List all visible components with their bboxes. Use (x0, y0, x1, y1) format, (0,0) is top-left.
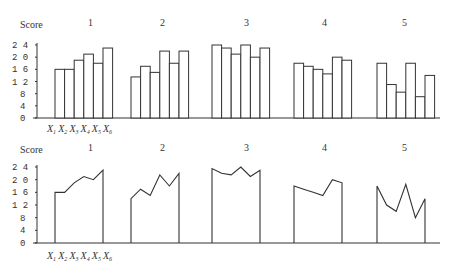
line-chart-line (377, 184, 425, 243)
line-chart-xlabel: X3 (68, 250, 78, 262)
line-chart-xlabel: X4 (80, 250, 90, 262)
bar-chart-bar (131, 77, 141, 118)
line-chart-ytick: 1 2 (12, 201, 28, 211)
bar-chart-xlabel: X1 (46, 123, 56, 135)
bar-chart-panel-title: 3 (244, 17, 249, 28)
line-chart-line (212, 167, 260, 243)
line-chart-ytick: 1 6 (12, 188, 28, 198)
bar-chart-bar (169, 63, 179, 118)
line-chart-xlabel: X5 (91, 250, 101, 262)
bar-chart-bar (323, 74, 333, 118)
line-chart-ytick: 4 (20, 226, 25, 236)
line-chart-panel-title: 2 (160, 142, 165, 153)
bar-chart-bar (84, 54, 94, 118)
bar-chart-xlabel: X5 (91, 123, 101, 135)
bar-chart-xlabel: X6 (102, 123, 112, 135)
bar-chart-bar (160, 51, 170, 118)
line-chart-ytick: 0 (20, 239, 25, 249)
bar-chart-xlabel: X2 (57, 123, 67, 135)
line-chart-line (131, 173, 179, 243)
line-chart-panel-title: 5 (402, 142, 407, 153)
bar-chart-bar (250, 57, 260, 118)
line-chart-xlabel: X6 (102, 250, 112, 262)
bar-chart-bar (241, 45, 251, 118)
line-chart-panel-title: 1 (88, 142, 93, 153)
bar-chart-ylabel: Score (20, 19, 43, 30)
bar-chart-bar (231, 54, 241, 118)
bar-chart-ytick: 2 0 (12, 53, 28, 63)
line-chart-ylabel: Score (20, 144, 43, 155)
line-chart-panel-title: 3 (244, 142, 249, 153)
bar-chart-panel-title: 1 (88, 17, 93, 28)
bar-chart-ytick: 4 (20, 102, 25, 112)
bar-chart-xlabel: X3 (68, 123, 78, 135)
bar-chart-bar (93, 63, 103, 118)
bar-chart-panel-title: 5 (402, 17, 407, 28)
bar-chart-bar (332, 57, 342, 118)
bar-chart-bar (425, 75, 435, 118)
bar-chart-bar (294, 63, 304, 118)
line-chart-xlabel: X1 (46, 250, 56, 262)
bar-chart-bar (74, 60, 84, 118)
line-chart-ytick: 8 (20, 214, 25, 224)
bar-chart-panel-title: 2 (160, 17, 165, 28)
bar-chart-bar (387, 85, 397, 118)
bar-chart-bar (260, 48, 270, 118)
bar-chart-bar (415, 97, 425, 118)
bar-chart-bar (377, 63, 387, 118)
bar-chart-panel-title: 4 (322, 17, 327, 28)
line-chart-line (294, 180, 342, 243)
line-chart-line (55, 170, 103, 243)
bar-chart-ytick: 1 6 (12, 65, 28, 75)
bar-chart-bar (212, 45, 222, 118)
line-chart-ytick: 2 4 (12, 163, 28, 173)
line-chart-panel-title: 4 (322, 142, 327, 153)
bar-chart-bar (141, 66, 151, 118)
line-chart-xlabel: X2 (57, 250, 67, 262)
bar-chart-bar (65, 69, 75, 118)
bar-chart-bar (304, 66, 314, 118)
bar-chart-bar (396, 92, 406, 118)
bar-chart-bar (150, 72, 160, 118)
bar-chart-bar (313, 69, 323, 118)
line-chart-ytick: 2 0 (12, 176, 28, 186)
bar-chart-ytick: 1 2 (12, 78, 28, 88)
bar-chart-ytick: 8 (20, 90, 25, 100)
bar-chart-bar (179, 51, 189, 118)
bar-chart-bar (342, 60, 352, 118)
bar-chart-xlabel: X4 (80, 123, 90, 135)
bar-chart-bar (406, 63, 416, 118)
bar-chart-bar (55, 69, 65, 118)
bar-chart-ytick: 0 (20, 114, 25, 124)
chart-canvas: Score123450481 21 62 02 4X1X2X3X4X5X6Sco… (0, 0, 464, 273)
bar-chart-bar (103, 48, 113, 118)
bar-chart-ytick: 2 4 (12, 41, 28, 51)
bar-chart-bar (222, 48, 232, 118)
